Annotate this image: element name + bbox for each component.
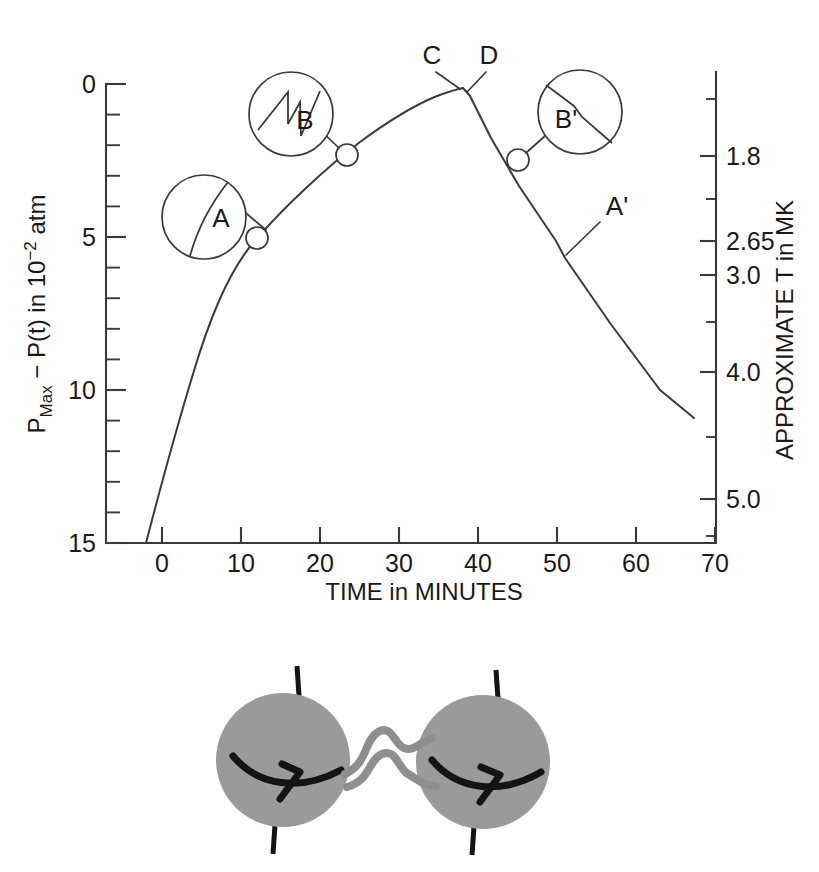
right-north-pole-tick-icon (496, 670, 498, 699)
right-sphere-group (416, 670, 550, 855)
left-north-pole-tick-icon (297, 666, 299, 696)
binary-spheres-diagram (0, 0, 819, 872)
left-sphere-group (216, 666, 350, 854)
right-south-pole-tick-icon (472, 826, 474, 855)
left-south-pole-tick-icon (273, 825, 275, 854)
figure-root: 0 5 10 15 PMax − P(t) in 10−2 atm 0 10 (0, 0, 819, 872)
